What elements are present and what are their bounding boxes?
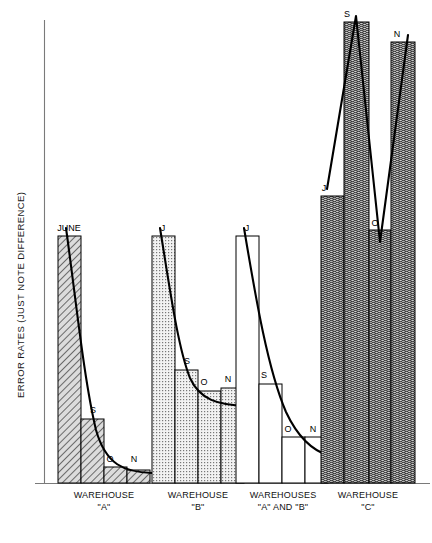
bar-warehouse-c-n[interactable] [391, 42, 415, 483]
bar-label-warehouse-c-s: S [344, 9, 350, 19]
bar-label-warehouse-a-o: O [106, 454, 113, 464]
bar-warehouse-c-j[interactable] [321, 196, 344, 483]
group-label-warehouse-c-line2: "C" [361, 502, 375, 512]
bar-label-warehouse-b-n: N [225, 374, 232, 384]
bar-label-warehouses-ab-j: J [245, 223, 250, 233]
bar-group-warehouse-a: JUNE S O N WAREHOUSE "A" [57, 223, 152, 512]
bar-label-warehouse-b-o: O [200, 377, 207, 387]
bar-warehouse-a-june[interactable] [58, 236, 81, 483]
bar-label-warehouse-c-j: J [322, 183, 327, 193]
bar-warehouses-ab-s[interactable] [259, 384, 282, 483]
bar-warehouse-a-s[interactable] [81, 419, 104, 483]
y-axis-label-text: ERROR RATES (JUST NOTE DIFFERENCE) [15, 192, 26, 398]
bar-label-warehouse-a-s: S [90, 405, 96, 415]
group-label-warehouse-b-line1: WAREHOUSE [168, 490, 228, 500]
bar-label-warehouse-b-j: J [161, 223, 166, 233]
bar-label-warehouses-ab-n: N [310, 424, 317, 434]
group-label-warehouse-a-line2: "A" [98, 502, 111, 512]
bar-warehouses-ab-j[interactable] [236, 236, 259, 483]
bar-label-warehouse-c-n: N [394, 29, 401, 39]
bar-group-warehouse-b: J S O N WAREHOUSE "B" [152, 223, 246, 512]
bar-group-warehouses-a-and-b: J S O N WAREHOUSES "A" AND "B" [236, 223, 330, 512]
bar-label-warehouses-ab-s: S [261, 370, 267, 380]
bar-warehouse-b-o[interactable] [198, 391, 221, 483]
bar-label-warehouse-b-s: S [184, 356, 190, 366]
y-axis-label: ERROR RATES (JUST NOTE DIFFERENCE) [15, 192, 26, 398]
group-label-warehouse-a-line1: WAREHOUSE [74, 490, 134, 500]
group-label-warehouse-c-line1: WAREHOUSE [338, 490, 398, 500]
bar-warehouses-ab-o[interactable] [282, 437, 305, 483]
bar-group-warehouse-c: J S O N WAREHOUSE "C" [321, 9, 415, 512]
group-label-warehouses-ab-line1: WAREHOUSES [250, 490, 317, 500]
bar-label-warehouses-ab-o: O [284, 424, 291, 434]
bar-label-warehouse-a-june: JUNE [57, 223, 81, 233]
chart-canvas: ERROR RATES (JUST NOTE DIFFERENCE) JUNE … [0, 0, 432, 543]
bar-label-warehouse-a-n: N [131, 454, 138, 464]
group-label-warehouse-b-line2: "B" [192, 502, 205, 512]
bar-warehouse-a-o[interactable] [104, 467, 127, 483]
bar-warehouse-b-j[interactable] [152, 236, 175, 483]
bar-warehouse-c-s[interactable] [344, 22, 369, 483]
group-label-warehouses-ab-line2: "A" AND "B" [258, 502, 309, 512]
error-rates-bar-chart: ERROR RATES (JUST NOTE DIFFERENCE) JUNE … [0, 0, 432, 543]
bar-label-warehouse-c-o: O [371, 218, 378, 228]
bar-warehouse-c-o[interactable] [369, 230, 391, 483]
